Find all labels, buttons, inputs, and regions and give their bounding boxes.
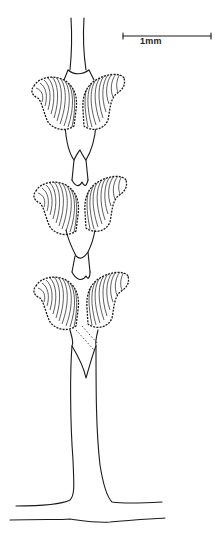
hydrotheca-pair-3 <box>34 252 129 350</box>
lower-stalk <box>16 330 162 506</box>
hydrotheca-pair-1 <box>32 70 125 160</box>
top-stalk <box>68 18 89 74</box>
internode-1 <box>72 160 88 180</box>
specimen-drawing <box>0 0 224 540</box>
hydrotheca-pair-2 <box>34 176 127 258</box>
substrate-line <box>10 518 165 522</box>
scale-bar-label: 1mm <box>140 36 162 46</box>
scale-bar <box>123 33 211 39</box>
specimen-illustration: 1mm <box>0 0 224 540</box>
